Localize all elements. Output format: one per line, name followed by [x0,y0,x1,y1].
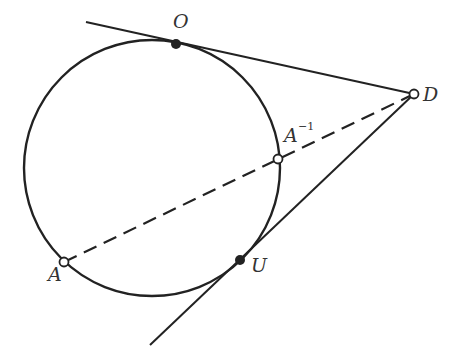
point-U [235,255,245,265]
label-U: U [251,254,268,276]
point-A-inverse [274,155,283,164]
label-A-inverse: A [282,124,298,146]
label-O: O [173,10,189,32]
label-A-inverse-exponent: −1 [298,120,314,133]
point-O [171,39,181,49]
tangent-line-U-D [150,94,414,345]
point-D [410,90,419,99]
secant-line-A-D [64,94,414,262]
label-D: D [422,83,438,105]
geometry-diagram: O D A −1 A U [0,0,453,360]
label-A: A [46,263,62,285]
tangent-line-O-D [86,22,414,94]
